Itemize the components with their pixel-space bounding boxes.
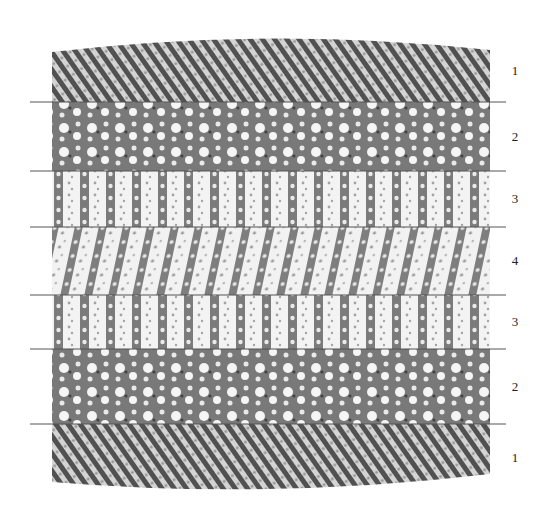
layer-label: 1 [508,63,522,79]
layer-region-mixed [52,227,490,295]
layer-label: 3 [508,191,522,207]
layer-label: 3 [508,314,522,330]
layer-region-porous [52,102,490,171]
layer-label: 1 [508,450,522,466]
molecular-snapshot [0,0,546,515]
layer-region-chains [52,295,490,349]
layer-label: 2 [508,129,522,145]
layer-label: 2 [508,379,522,395]
layer-region-porous [52,349,490,424]
layer-region-crystal [52,424,490,489]
layer-label: 4 [508,253,522,269]
layer-region-crystal [52,38,490,102]
layer-region-chains [52,171,490,227]
